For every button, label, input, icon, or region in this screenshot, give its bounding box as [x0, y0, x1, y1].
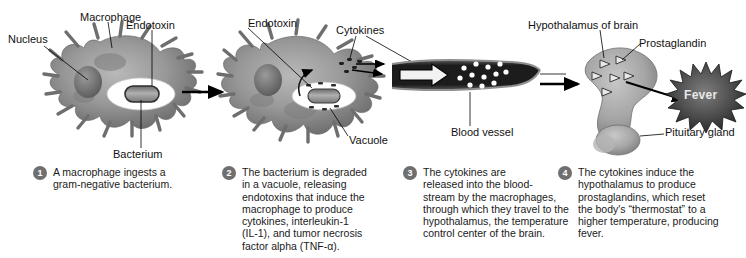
label-prostaglandin: Prostaglandin: [639, 37, 706, 49]
bacterium-shape: [125, 86, 159, 102]
label-blood-vessel: Blood vessel: [451, 126, 513, 138]
panel-2-degradation: [218, 20, 412, 142]
label-endotoxin-1: Endotoxin: [126, 19, 175, 31]
step-badge-1: 1: [33, 166, 47, 180]
label-vacuole: Vacuole: [349, 134, 388, 146]
leader-cytokines-b: [366, 36, 412, 62]
label-fever: Fever: [684, 88, 718, 102]
step-caption-3: The cytokines are released into the bloo…: [423, 166, 575, 240]
panel-3-blood-vessel: [392, 60, 578, 126]
step-badge-4: 4: [558, 166, 572, 180]
fever-pathway-diagram: Nucleus Macrophage Endotoxin Bacterium E…: [0, 0, 746, 258]
step-badge-3: 3: [403, 166, 417, 180]
leader-pituitary: [640, 134, 664, 136]
label-nucleus: Nucleus: [8, 33, 48, 45]
nucleus-shape-2: [254, 64, 282, 96]
label-endotoxin-2: Endotoxin: [248, 17, 297, 29]
step-caption-1: A macrophage ingests a gram-negative bac…: [53, 166, 183, 191]
label-cytokines: Cytokines: [336, 24, 384, 36]
label-pituitary: Pituitary gland: [665, 126, 735, 138]
panel-1-macrophage: [44, 22, 222, 148]
step-caption-4: The cytokines induce the hypothalamus to…: [578, 166, 738, 240]
step-badge-2: 2: [222, 166, 236, 180]
step-caption-2: The bacterium is degraded in a vacuole, …: [242, 166, 382, 252]
label-bacterium: Bacterium: [113, 148, 163, 160]
label-hypothalamus: Hypothalamus of brain: [528, 19, 638, 31]
nucleus-shape: [74, 66, 102, 98]
